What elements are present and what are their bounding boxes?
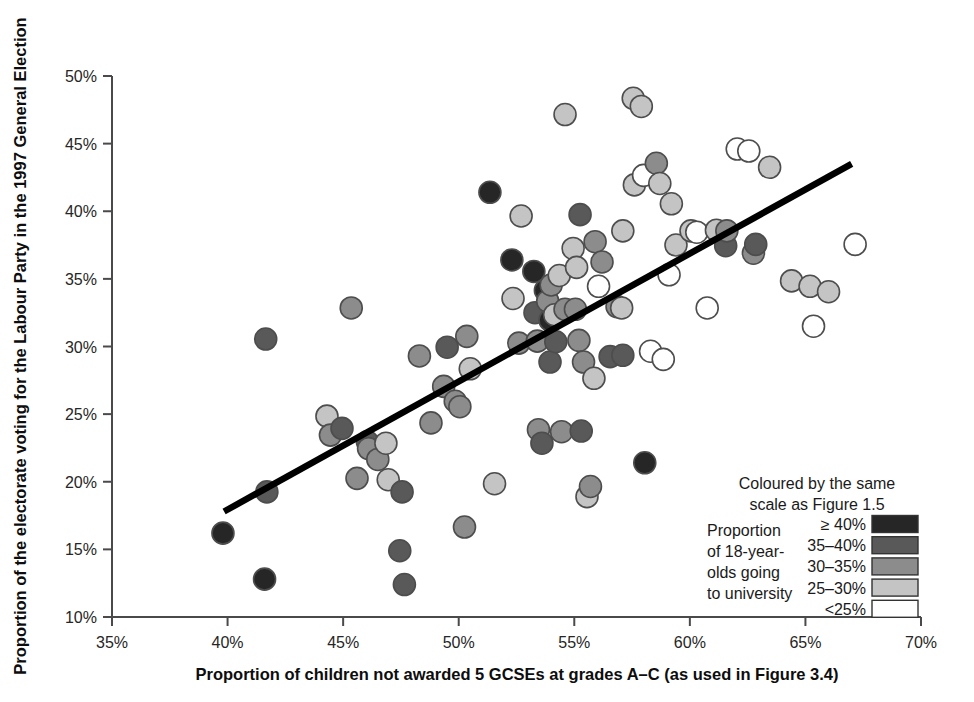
- x-tick-label: 45%: [327, 634, 359, 651]
- x-tick-label: 55%: [558, 634, 590, 651]
- data-point: [212, 522, 234, 544]
- x-axis-title: Proportion of children not awarded 5 GCS…: [195, 665, 838, 683]
- data-point: [649, 173, 671, 195]
- y-tick-label: 50%: [65, 68, 97, 85]
- legend-note-line-1: Coloured by the same: [739, 475, 896, 492]
- data-point: [569, 204, 591, 226]
- data-point: [738, 140, 760, 162]
- data-point: [255, 328, 277, 350]
- data-point: [501, 249, 523, 271]
- legend-caption-line-3: olds going: [707, 564, 780, 581]
- data-point: [818, 281, 840, 303]
- data-point: [612, 344, 634, 366]
- data-point: [583, 367, 605, 389]
- data-point: [346, 467, 368, 489]
- legend-caption-line-4: to university: [707, 585, 792, 602]
- data-point: [389, 540, 411, 562]
- legend: Coloured by the same scale as Figure 1.5…: [707, 475, 918, 618]
- data-point: [686, 221, 708, 243]
- data-point: [568, 329, 590, 351]
- data-point: [453, 516, 475, 538]
- data-point: [456, 325, 478, 347]
- data-point: [634, 452, 656, 474]
- x-tick-label: 40%: [212, 634, 244, 651]
- data-point: [645, 152, 667, 174]
- legend-caption-line-1: Proportion: [707, 522, 781, 539]
- data-point: [696, 297, 718, 319]
- y-tick-label: 35%: [65, 271, 97, 288]
- data-points-layer: [212, 87, 866, 595]
- legend-entry-label: 25–30%: [807, 580, 866, 597]
- data-point: [484, 473, 506, 495]
- data-point: [449, 396, 471, 418]
- y-tick-label: 30%: [65, 339, 97, 356]
- data-point: [844, 233, 866, 255]
- x-tick-label: 35%: [96, 634, 128, 651]
- legend-entry-label: ≥ 40%: [821, 516, 866, 533]
- y-tick-label: 25%: [65, 406, 97, 423]
- y-tick-label: 20%: [65, 474, 97, 491]
- data-point: [803, 315, 825, 337]
- data-point: [554, 104, 576, 126]
- data-point: [408, 345, 430, 367]
- data-point: [436, 336, 458, 358]
- data-point: [340, 297, 362, 319]
- data-point: [630, 95, 652, 117]
- data-point: [391, 481, 413, 503]
- x-tick-label: 60%: [674, 634, 706, 651]
- data-point: [420, 412, 442, 434]
- data-point: [393, 574, 415, 596]
- data-point: [579, 475, 601, 497]
- y-tick-label: 40%: [65, 203, 97, 220]
- legend-entry-swatch: [872, 516, 918, 533]
- x-axis-ticks: 35%40%45%50%55%60%65%70%: [96, 617, 937, 651]
- data-point: [591, 251, 613, 273]
- data-point: [612, 220, 634, 242]
- legend-entry-label: 30–35%: [807, 558, 866, 575]
- data-point: [531, 432, 553, 454]
- data-point: [566, 256, 588, 278]
- data-point: [539, 351, 561, 373]
- data-point: [759, 156, 781, 178]
- y-axis-title: Proportion of the electorate voting for …: [11, 17, 29, 674]
- data-point: [745, 233, 767, 255]
- data-point: [652, 348, 674, 370]
- figure-container: 10%15%20%25%30%35%40%45%50% 35%40%45%50%…: [0, 0, 974, 702]
- data-point: [502, 287, 524, 309]
- legend-entry-swatch: [872, 558, 918, 575]
- y-axis-ticks: 10%15%20%25%30%35%40%45%50%: [65, 68, 112, 626]
- data-point: [510, 205, 532, 227]
- data-point: [588, 275, 610, 297]
- legend-entry-swatch: [872, 579, 918, 596]
- x-tick-label: 70%: [905, 634, 937, 651]
- data-point: [551, 421, 573, 443]
- data-point: [331, 417, 353, 439]
- legend-entries: ≥ 40%35–40%30–35%25–30%<25%: [807, 516, 918, 618]
- y-tick-label: 45%: [65, 136, 97, 153]
- legend-entry-label: 35–40%: [807, 537, 866, 554]
- y-tick-label: 15%: [65, 541, 97, 558]
- data-point: [479, 181, 501, 203]
- data-point: [611, 297, 633, 319]
- x-tick-label: 50%: [443, 634, 475, 651]
- trend-line: [224, 164, 852, 512]
- data-point: [254, 568, 276, 590]
- data-point: [584, 231, 606, 253]
- legend-entry-swatch: [872, 537, 918, 554]
- legend-entry-label: <25%: [825, 601, 866, 618]
- legend-caption-line-2: of 18-year-: [707, 543, 784, 560]
- data-point: [375, 432, 397, 454]
- data-point: [570, 420, 592, 442]
- y-tick-label: 10%: [65, 609, 97, 626]
- x-tick-label: 65%: [789, 634, 821, 651]
- data-point: [660, 193, 682, 215]
- legend-entry-swatch: [872, 600, 918, 617]
- legend-note-line-2: scale as Figure 1.5: [749, 496, 884, 513]
- scatter-plot: 10%15%20%25%30%35%40%45%50% 35%40%45%50%…: [0, 0, 974, 702]
